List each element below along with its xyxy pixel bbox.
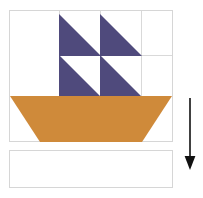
diagram-canvas — [0, 0, 203, 198]
empty-border-strip[interactable] — [9, 150, 173, 188]
sail-bottom-left[interactable] — [59, 55, 101, 97]
boat-hull[interactable] — [10, 96, 172, 142]
sail-bottom-right[interactable] — [100, 55, 142, 97]
sailboat-block[interactable] — [9, 10, 173, 142]
sail-top-left[interactable] — [59, 14, 101, 56]
sail-top-right[interactable] — [100, 14, 142, 56]
arrow-down-icon — [180, 98, 200, 172]
